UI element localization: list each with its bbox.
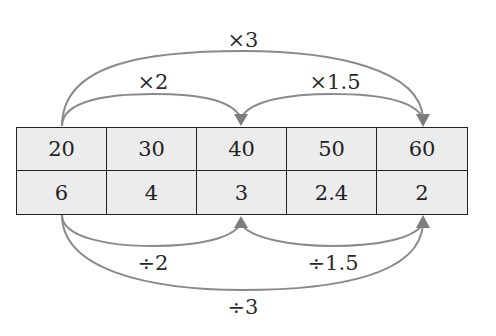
arrowhead-up-col3 xyxy=(234,216,248,228)
label-divide-3: ÷3 xyxy=(228,295,259,319)
arrow-divide-1-5 xyxy=(241,224,423,246)
table-cell-top-2: 30 xyxy=(107,128,197,171)
arrow-times-1-5 xyxy=(241,94,423,118)
arrow-times-2 xyxy=(62,94,241,126)
arrowhead-down-col3 xyxy=(234,114,248,126)
table-cell-top-1: 20 xyxy=(17,128,107,171)
label-times-3: ×3 xyxy=(228,28,259,52)
label-divide-1-5: ÷1.5 xyxy=(308,251,359,275)
ratio-table: 20 30 40 50 60 6 4 3 2.4 2 xyxy=(16,127,468,215)
table-cell-bottom-2: 4 xyxy=(107,171,197,214)
arrow-divide-2 xyxy=(62,215,241,246)
table-cell-top-4: 50 xyxy=(287,128,377,171)
table-cell-top-3: 40 xyxy=(197,128,287,171)
table-cell-bottom-1: 6 xyxy=(17,171,107,214)
arrowhead-up-col5 xyxy=(416,215,430,228)
label-divide-2: ÷2 xyxy=(138,251,169,275)
label-times-1-5: ×1.5 xyxy=(310,70,361,94)
label-times-2: ×2 xyxy=(138,70,169,94)
arrowhead-down-col5 xyxy=(416,114,430,127)
table-cell-bottom-5: 2 xyxy=(377,171,467,214)
table-cell-bottom-3: 3 xyxy=(197,171,287,214)
table-cell-bottom-4: 2.4 xyxy=(287,171,377,214)
table-cell-top-5: 60 xyxy=(377,128,467,171)
